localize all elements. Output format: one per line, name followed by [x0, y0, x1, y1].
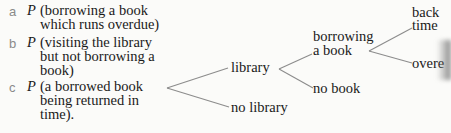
node-no-book: no book [313, 82, 360, 95]
tree-branches [0, 0, 451, 133]
node-back-time-line: time [412, 19, 438, 32]
page-edge-shadow [437, 40, 451, 80]
node-borrowing-line: a book [313, 44, 352, 57]
node-no-library: no library [231, 101, 288, 114]
node-library: library [231, 61, 270, 74]
